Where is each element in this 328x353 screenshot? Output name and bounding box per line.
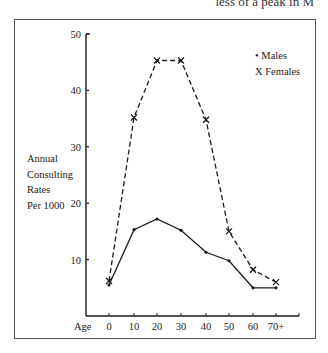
x-tick-label: 60 [248,321,259,332]
series-line-females [109,61,276,283]
x-tick-label: 20 [152,321,163,332]
y-tick-label: 50 [71,29,82,40]
x-axis-label: Age [74,321,92,332]
x-tick-label: 30 [176,321,187,332]
data-point-males [107,283,110,286]
data-point-males [274,286,277,289]
y-tick-label: 20 [71,198,82,209]
data-point-males [155,217,158,220]
y-tick-label: 40 [71,85,82,96]
data-point-females [250,267,256,273]
data-point-males [251,286,254,289]
data-point-females [203,117,209,123]
data-point-males [227,259,230,262]
y-tick-label: 10 [71,255,82,266]
x-tick-label: 10 [129,321,140,332]
y-tick-label: 30 [71,142,82,153]
x-tick-label: 0 [106,321,111,332]
line-chart: 1020304050Age010203040506070+ [0,0,328,353]
data-point-males [204,251,207,254]
x-tick-label: 70+ [268,321,285,332]
x-tick-label: 50 [224,321,235,332]
data-point-females [273,279,279,285]
x-tick-label: 40 [201,321,212,332]
data-point-males [179,229,182,232]
data-point-males [132,228,135,231]
